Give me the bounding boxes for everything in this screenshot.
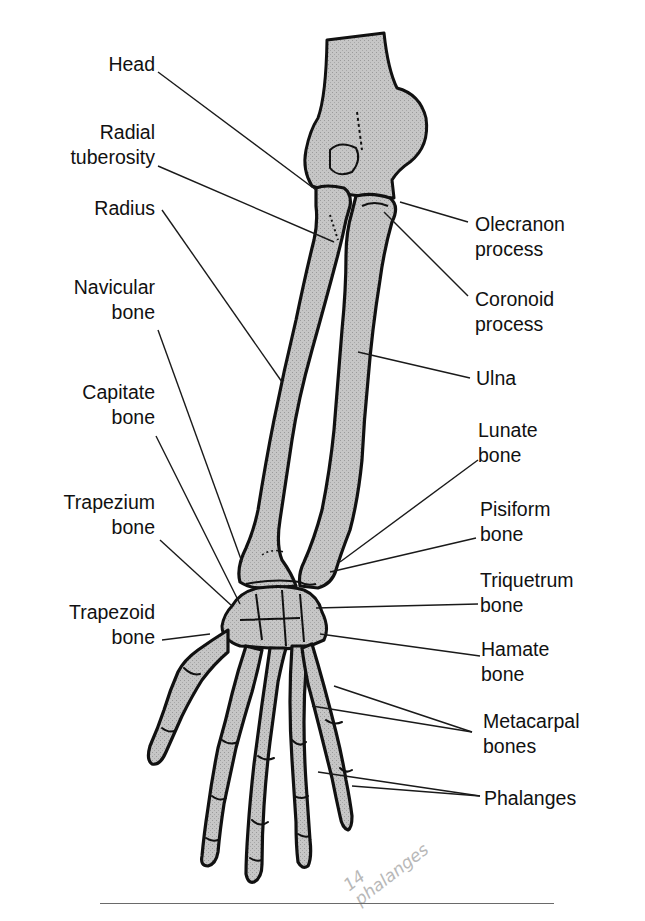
label-head: Head [108,52,155,77]
label-trapezium-bone: Trapezium bone [64,490,155,540]
label-ulna: Ulna [476,366,516,391]
label-navicular-bone: Navicular bone [74,275,155,325]
humerus-icon [305,33,427,198]
label-pisiform-bone: Pisiform bone [480,497,550,547]
label-coronoid-process: Coronoid process [475,287,554,337]
label-olecranon-process: Olecranon process [475,212,565,262]
carpal-bones-icon [222,586,327,648]
label-trapezoid-bone: Trapezoid bone [69,600,155,650]
label-lunate-bone: Lunate bone [478,418,538,468]
anatomy-figure: Head Radial tuberosity Radius Navicular … [0,0,645,921]
label-metacarpal-bones: Metacarpal bones [483,709,579,759]
label-phalanges: Phalanges [484,786,576,811]
label-hamate-bone: Hamate bone [481,637,549,687]
divider-rule [100,903,554,904]
label-radius: Radius [94,196,155,221]
label-capitate-bone: Capitate bone [82,380,155,430]
label-triquetrum-bone: Triquetrum bone [480,568,574,618]
hand-bones-icon [148,630,352,882]
label-radial-tuberosity: Radial tuberosity [70,120,155,170]
